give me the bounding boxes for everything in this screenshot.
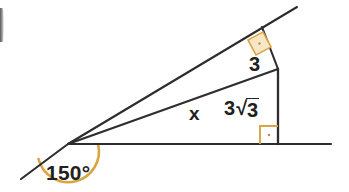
side-label-3-root-3: 3 √ 3 bbox=[224, 98, 259, 120]
angle-label-150: 150° bbox=[46, 162, 90, 183]
side-label-3: 3 bbox=[249, 54, 260, 74]
radical-expression: √ 3 bbox=[236, 98, 259, 120]
side-label-x: x bbox=[189, 104, 200, 123]
radicand-3: 3 bbox=[246, 98, 259, 120]
coefficient-3: 3 bbox=[224, 98, 235, 118]
right-angle-bottom-icon bbox=[260, 126, 278, 144]
geometry-figure: 150° x 3 3 √ 3 bbox=[0, 0, 349, 192]
